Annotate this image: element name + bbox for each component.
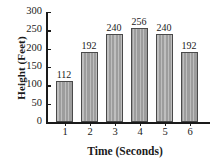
x-tick-label: 1: [54, 126, 76, 138]
y-tick-label: 200: [26, 42, 42, 54]
y-tick-label: 0: [37, 115, 42, 127]
bar-value-label: 192: [76, 40, 102, 51]
x-tick-label: 6: [179, 126, 201, 138]
bar-value-label: 240: [101, 22, 127, 33]
x-tick-label: 4: [129, 126, 151, 138]
y-tick-label: 150: [26, 60, 42, 72]
bar-value-label: 240: [151, 22, 177, 33]
plot-area: 050100150200250300 112192240256240192 12…: [46, 12, 210, 123]
y-tick-label: 50: [32, 97, 43, 109]
bar: [131, 28, 148, 122]
x-axis-title: Time (Seconds): [40, 145, 210, 157]
x-tick-label: 2: [79, 126, 101, 138]
x-tick-label: 5: [154, 126, 176, 138]
x-tick-label: 3: [104, 126, 126, 138]
bar: [56, 81, 73, 122]
bar-value-label: 256: [126, 16, 152, 27]
bar: [81, 52, 98, 122]
bar: [156, 34, 173, 122]
y-tick-label: 100: [26, 78, 42, 90]
bar-chart: Height (Feet) 050100150200250300 1121922…: [0, 0, 215, 165]
y-tick-label: 300: [26, 5, 42, 17]
y-tick-label: 250: [26, 23, 42, 35]
bar-value-label: 112: [51, 69, 77, 80]
x-axis-line: [46, 122, 210, 124]
y-axis-title: Height (Feet): [15, 13, 27, 123]
bar: [106, 34, 123, 122]
y-tick-mark: [47, 122, 51, 123]
bar-series: 112192240256240192: [46, 12, 210, 122]
bar: [181, 52, 198, 122]
bar-value-label: 192: [176, 40, 202, 51]
